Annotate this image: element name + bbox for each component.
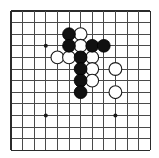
black-stone[interactable] [86, 39, 99, 52]
white-stone[interactable] [51, 51, 64, 64]
star-point [44, 44, 48, 48]
white-stone[interactable] [86, 74, 99, 87]
go-board-diagram [0, 0, 159, 158]
white-stone[interactable] [109, 63, 122, 76]
star-point [44, 113, 48, 117]
white-stone[interactable] [109, 86, 122, 99]
black-stone[interactable] [74, 86, 87, 99]
black-stone[interactable] [74, 74, 87, 87]
black-stone[interactable] [97, 39, 110, 52]
white-stone[interactable] [63, 51, 76, 64]
white-stone[interactable] [86, 51, 99, 64]
white-stone[interactable] [86, 63, 99, 76]
black-stone[interactable] [63, 28, 76, 41]
black-stone[interactable] [74, 51, 87, 64]
board-stones[interactable] [51, 28, 122, 99]
white-stone[interactable] [74, 28, 87, 41]
star-point [113, 113, 117, 117]
black-stone[interactable] [63, 39, 76, 52]
white-stone[interactable] [74, 39, 87, 52]
black-stone[interactable] [74, 63, 87, 76]
go-board-canvas[interactable] [0, 0, 159, 158]
